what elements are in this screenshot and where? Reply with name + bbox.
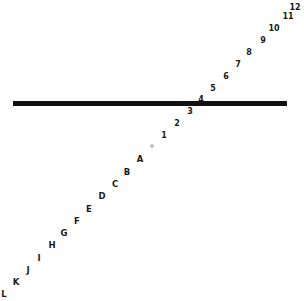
point-label-11: 11: [282, 13, 293, 21]
point-label-j: J: [26, 266, 29, 274]
point-label-4: 4: [198, 96, 204, 104]
point-label-f: F: [74, 217, 80, 225]
point-label-l: L: [1, 290, 6, 298]
point-label-8: 8: [246, 49, 252, 57]
point-label-1: 1: [161, 132, 167, 140]
point-label-2: 2: [174, 120, 180, 128]
point-label-d: D: [98, 192, 105, 200]
point-label-a: A: [137, 155, 144, 163]
point-label-3: 3: [187, 108, 193, 116]
point-label-g: G: [61, 229, 68, 237]
point-label-i: I: [37, 254, 40, 262]
point-label-7: 7: [235, 61, 241, 69]
point-label-b: B: [124, 168, 130, 176]
point-label-12: 12: [289, 4, 300, 12]
point-label-e: E: [86, 205, 92, 213]
point-label-h: H: [48, 241, 55, 249]
diagram-canvas: 121110987654321ABCDEFGHIJKL: [0, 0, 304, 301]
point-label-c: C: [112, 180, 118, 188]
gray-dot-marker: [150, 144, 154, 148]
point-label-9: 9: [260, 37, 266, 45]
point-label-6: 6: [223, 73, 229, 81]
point-label-10: 10: [268, 25, 279, 33]
point-label-k: K: [13, 278, 20, 286]
horizontal-black-bar: [13, 101, 287, 106]
point-label-5: 5: [210, 85, 216, 93]
